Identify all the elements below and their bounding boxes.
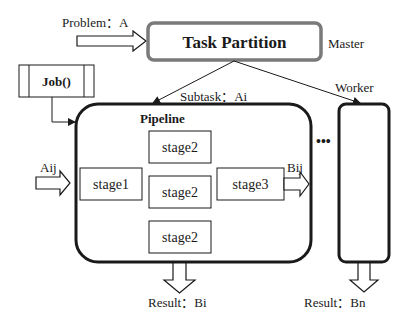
stage-node: stage3 <box>217 168 284 200</box>
pipeline-result-arrow-icon <box>164 263 195 293</box>
result-bi-label: Result：Bi <box>148 295 207 310</box>
stage-label: stage2 <box>162 185 198 200</box>
stage-node: stage2 <box>149 221 211 253</box>
job-to-pipeline-arrow <box>52 97 75 122</box>
worker-role-label: Worker <box>335 80 374 95</box>
job-label: Job() <box>42 74 71 89</box>
worker-box <box>339 104 389 262</box>
diagram-canvas: Problem：A Task Partition Master Job() Su… <box>0 0 407 319</box>
subtask-label: Subtask：Ai <box>180 89 248 104</box>
stage-label: stage2 <box>162 230 198 245</box>
stage-node: stage1 <box>80 168 142 200</box>
stage-label: stage3 <box>233 177 269 192</box>
task-partition-title: Task Partition <box>183 33 287 52</box>
master-role-label: Master <box>328 36 365 51</box>
result-bn-label: Result：Bn <box>304 295 366 310</box>
master-task-partition-node: Task Partition <box>148 23 321 60</box>
pipeline-worker-node: Pipeline stage2 stage1 stage2 stage3 sta… <box>76 104 311 262</box>
stage-label: stage1 <box>93 177 129 192</box>
job-node: Job() <box>19 65 94 97</box>
stage-node: stage2 <box>149 176 211 208</box>
problem-label: Problem：A <box>62 15 129 30</box>
stage-label: stage2 <box>162 140 198 155</box>
aij-label: Aij <box>40 160 57 175</box>
problem-input-arrow-icon <box>77 31 146 51</box>
worker-result-arrow-icon <box>350 263 378 292</box>
pipeline-title: Pipeline <box>140 111 185 126</box>
stage-node: stage2 <box>149 131 211 163</box>
more-workers-ellipsis: ••• <box>316 134 331 149</box>
